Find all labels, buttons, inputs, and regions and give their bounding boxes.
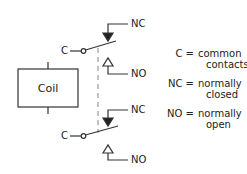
legend-value-line1: normally <box>198 78 242 89</box>
bottom-common-label: C <box>61 130 68 141</box>
legend-value-line2: open <box>206 119 231 130</box>
bottom-no-label: NO <box>131 154 146 165</box>
legend-key: C = <box>158 48 194 59</box>
legend-key: NC = <box>158 78 194 89</box>
legend-value-line2: closed <box>206 89 238 100</box>
coil-label: Coil <box>18 82 78 95</box>
bottom-switch <box>70 110 128 160</box>
bottom-nc-label: NC <box>131 104 145 115</box>
legend-key: NO = <box>158 108 194 119</box>
top-no-label: NO <box>131 68 146 79</box>
top-switch <box>70 24 128 74</box>
legend-value-line1: common <box>198 48 242 59</box>
top-common-label: C <box>61 45 68 56</box>
top-nc-label: NC <box>131 18 145 29</box>
legend-value-line1: normally <box>198 108 242 119</box>
legend-value-line2: contacts <box>206 59 247 70</box>
